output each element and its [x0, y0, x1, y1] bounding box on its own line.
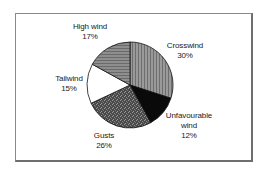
pie-chart	[0, 0, 267, 176]
label-crosswind-pct: 30%	[160, 51, 210, 61]
label-gusts-pct: 26%	[87, 141, 121, 151]
label-high-wind-name: High wind	[70, 22, 110, 32]
label-unfavourable-pct: 12%	[163, 131, 215, 141]
label-tailwind: Tailwind 15%	[52, 74, 86, 94]
label-high-wind-pct: 17%	[70, 32, 110, 42]
label-gusts: Gusts 26%	[87, 131, 121, 151]
label-crosswind: Crosswind 30%	[160, 41, 210, 61]
label-tailwind-name: Tailwind	[52, 74, 86, 84]
label-crosswind-name: Crosswind	[160, 41, 210, 51]
label-gusts-name: Gusts	[87, 131, 121, 141]
label-unfavourable-name-1: Unfavourable	[163, 111, 215, 121]
label-unfavourable-name-2: wind	[163, 121, 215, 131]
label-tailwind-pct: 15%	[52, 84, 86, 94]
label-unfavourable-wind: Unfavourable wind 12%	[163, 111, 215, 141]
label-high-wind: High wind 17%	[70, 22, 110, 42]
